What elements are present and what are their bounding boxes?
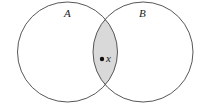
set-b-label: B <box>139 7 146 19</box>
point-x-label: x <box>105 52 111 64</box>
point-x-dot <box>100 57 104 61</box>
set-a-label: A <box>63 7 71 19</box>
venn-diagram: A B x <box>0 0 203 108</box>
